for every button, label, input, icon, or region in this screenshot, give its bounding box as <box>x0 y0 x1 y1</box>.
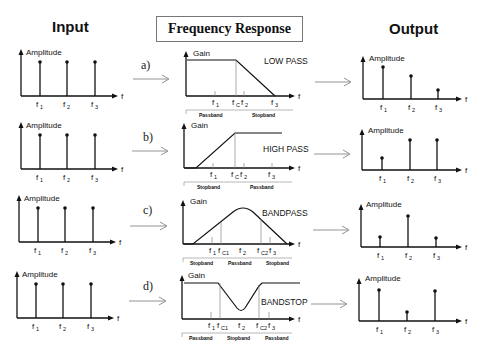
svg-text:f: f <box>465 95 468 104</box>
svg-text:C2: C2 <box>261 250 268 256</box>
svg-text:f: f <box>63 100 66 109</box>
svg-text:Amplitude: Amplitude <box>368 126 404 135</box>
svg-text:C1: C1 <box>222 250 229 256</box>
svg-text:f: f <box>465 317 468 326</box>
svg-text:f: f <box>465 166 468 175</box>
svg-text:1: 1 <box>40 177 43 183</box>
svg-text:2: 2 <box>67 177 70 183</box>
svg-text:f: f <box>404 325 407 334</box>
svg-text:BANDSTOP: BANDSTOP <box>261 297 308 307</box>
svg-text:C: C <box>235 174 239 180</box>
svg-text:f: f <box>271 98 274 107</box>
svg-text:2: 2 <box>411 178 414 184</box>
svg-text:f: f <box>91 173 94 182</box>
svg-text:f: f <box>380 103 383 112</box>
svg-text:f: f <box>241 98 244 107</box>
svg-text:1: 1 <box>216 102 219 108</box>
svg-text:1: 1 <box>40 104 43 110</box>
svg-text:f: f <box>377 251 380 260</box>
svg-text:f: f <box>121 92 124 101</box>
svg-text:f: f <box>238 321 241 330</box>
svg-text:BANDPASS: BANDPASS <box>262 208 308 218</box>
input-spectrum-d: f Amplitude f1 f2 f3 <box>15 270 121 332</box>
svg-text:f: f <box>376 325 379 334</box>
svg-text:3: 3 <box>439 107 442 113</box>
svg-text:Passband: Passband <box>199 112 223 118</box>
axis-arrow-icon <box>19 49 24 55</box>
svg-text:f: f <box>208 321 211 330</box>
svg-text:3: 3 <box>272 174 275 180</box>
svg-text:f: f <box>432 325 435 334</box>
svg-text:3: 3 <box>93 250 96 256</box>
svg-text:f: f <box>63 173 66 182</box>
svg-text:2: 2 <box>65 250 68 256</box>
svg-text:f: f <box>231 170 234 179</box>
svg-text:f: f <box>119 238 122 247</box>
output-spectrum-a: f Amplitude f1 f2 f3 <box>361 54 469 113</box>
svg-text:3: 3 <box>436 329 439 335</box>
svg-text:2: 2 <box>408 329 411 335</box>
svg-text:f: f <box>218 246 221 255</box>
svg-text:f: f <box>217 321 220 330</box>
svg-text:f: f <box>239 246 242 255</box>
svg-text:Stopband: Stopband <box>190 260 213 266</box>
svg-text:1: 1 <box>384 107 387 113</box>
svg-text:f: f <box>405 251 408 260</box>
svg-text:2: 2 <box>409 255 412 261</box>
bandpass-response: f Gain BANDPASS f1 fC1 f2 fC2 f3 Stopban… <box>181 197 308 266</box>
svg-text:f: f <box>121 165 124 174</box>
svg-text:LOW PASS: LOW PASS <box>264 56 308 66</box>
svg-text:Gain: Gain <box>188 271 205 280</box>
svg-text:Stopband: Stopband <box>227 335 250 341</box>
svg-text:2: 2 <box>243 250 246 256</box>
svg-text:f: f <box>256 321 259 330</box>
svg-text:Amplitude: Amplitude <box>26 121 62 130</box>
input-spectrum-c: f Amplitude f1 f2 f3 <box>17 194 123 256</box>
arrow-icon <box>311 78 351 308</box>
svg-text:2: 2 <box>242 325 245 331</box>
svg-text:1: 1 <box>380 329 383 335</box>
highpass-response: f Gain HIGH PASS f1 fC f2 f3 Stopband Pa… <box>182 121 309 190</box>
svg-text:f: f <box>298 164 301 173</box>
svg-text:f: f <box>61 246 64 255</box>
svg-text:3: 3 <box>95 177 98 183</box>
bandstop-response: f Gain BANDSTOP f1 fC1 f2 fC2 f3 Passban… <box>180 271 308 341</box>
svg-text:Gain: Gain <box>193 49 210 58</box>
svg-text:Passband: Passband <box>189 335 213 341</box>
axis-arrow-icon <box>112 94 118 99</box>
input-spectrum-b: f Amplitude f1 f2 f3 <box>19 121 125 183</box>
svg-text:f: f <box>433 251 436 260</box>
svg-text:f: f <box>34 246 37 255</box>
svg-text:f: f <box>32 322 35 331</box>
svg-text:C: C <box>236 102 240 108</box>
svg-text:3: 3 <box>95 104 98 110</box>
svg-text:f: f <box>434 174 437 183</box>
svg-text:f: f <box>59 322 62 331</box>
output-spectrum-b: f Amplitude f1 f2 f3 <box>360 126 469 184</box>
svg-text:f: f <box>298 92 301 101</box>
svg-text:Gain: Gain <box>191 121 208 130</box>
svg-text:f: f <box>408 103 411 112</box>
svg-text:f: f <box>269 246 272 255</box>
svg-text:1: 1 <box>381 255 384 261</box>
svg-text:Stopband: Stopband <box>197 184 220 190</box>
svg-text:f: f <box>435 103 438 112</box>
svg-text:3: 3 <box>273 250 276 256</box>
svg-text:1: 1 <box>213 250 216 256</box>
svg-text:C1: C1 <box>221 325 228 331</box>
svg-text:1: 1 <box>36 326 39 332</box>
svg-text:2: 2 <box>67 104 70 110</box>
svg-text:f: f <box>117 314 120 323</box>
svg-text:Stopband: Stopband <box>266 260 289 266</box>
svg-text:Passband: Passband <box>228 260 252 266</box>
svg-text:f: f <box>210 170 213 179</box>
svg-text:f: f <box>379 174 382 183</box>
svg-text:Passband: Passband <box>250 184 274 190</box>
svg-text:HIGH PASS: HIGH PASS <box>263 144 309 154</box>
output-spectrum-c: f Amplitude f1 f2 f3 <box>359 200 469 261</box>
lowpass-response: f Gain LOW PASS f1 fC f2 f3 Passband Sto… <box>184 49 309 118</box>
svg-text:2: 2 <box>244 174 247 180</box>
svg-text:f: f <box>212 98 215 107</box>
svg-text:f: f <box>240 170 243 179</box>
svg-text:Stopband: Stopband <box>252 112 275 118</box>
